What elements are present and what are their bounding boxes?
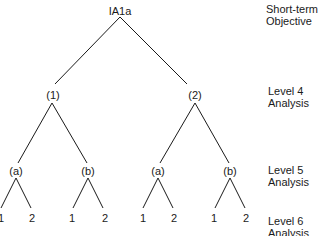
level6-leaf: 2	[102, 212, 108, 224]
level-label-objective: Short-term Objective	[266, 3, 318, 27]
level-label-6: Level 6 Analysis	[268, 215, 309, 236]
tree-diagram: IA1a (1) (2) (a) (b) (a) (b) 1 2 1 2 1 2…	[0, 0, 320, 236]
level5-node-1a: (a)	[9, 165, 22, 177]
root-node: IA1a	[109, 5, 132, 17]
level5-node-2a: (a)	[151, 165, 164, 177]
level6-leaf: 1	[140, 212, 146, 224]
level-label-4: Level 4 Analysis	[268, 85, 309, 109]
level5-node-2b: (b)	[223, 165, 236, 177]
tree-edges	[0, 0, 320, 236]
level6-leaf: 1	[69, 212, 75, 224]
level6-leaf: 2	[29, 212, 35, 224]
level6-leaf: 2	[243, 212, 249, 224]
level5-node-1b: (b)	[81, 165, 94, 177]
level-label-5: Level 5 Analysis	[268, 164, 309, 188]
level6-leaf: 2	[171, 212, 177, 224]
level4-node-2: (2)	[188, 89, 201, 101]
level4-node-1: (1)	[46, 89, 59, 101]
level6-leaf: 1	[0, 212, 4, 224]
level6-leaf: 1	[211, 212, 217, 224]
